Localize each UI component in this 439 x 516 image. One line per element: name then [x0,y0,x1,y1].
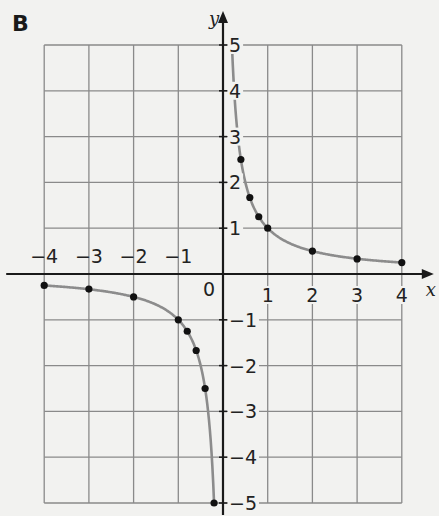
axes [6,11,434,515]
panel-label: B [12,11,29,36]
y-tick-label: −4 [229,446,257,468]
origin-label: 0 [203,278,215,300]
data-point [184,328,191,335]
data-point [264,225,271,232]
data-point [237,156,244,163]
data-point [41,282,48,289]
y-tick-label: 3 [229,126,241,148]
data-point [175,316,182,323]
data-point [85,286,92,293]
x-axis-label: x [426,279,436,300]
data-point [354,255,361,262]
x-tick-label: 4 [396,284,408,306]
data-point [193,347,200,354]
y-tick-label: 5 [229,34,241,56]
data-point [398,259,405,266]
data-point [309,248,316,255]
data-point [246,194,253,201]
x-tick-label: 3 [351,284,363,306]
y-axis-label: y [208,8,220,29]
y-axis-arrow [218,11,228,23]
data-point [130,293,137,300]
curve-negative-branch [44,285,214,503]
data-point [210,499,217,506]
x-tick-label: 2 [306,284,318,306]
data-point [255,213,262,220]
y-tick-label: −2 [229,355,257,377]
y-tick-label: 2 [229,171,241,193]
x-tick-label: −1 [164,245,192,267]
data-point [202,385,209,392]
y-tick-label: −1 [229,309,257,331]
x-tick-label: −2 [120,245,148,267]
chart: B −4−3−2−11234−5−4−3−2−112345 x y 0 [0,0,439,516]
x-tick-label: −4 [30,245,58,267]
curve-positive-branch [232,45,402,263]
y-tick-label: 4 [229,80,241,102]
x-tick-label: 1 [262,284,274,306]
x-axis-arrow [422,269,434,279]
y-tick-label: 1 [229,217,241,239]
y-tick-label: −5 [229,492,257,514]
y-tick-label: −3 [229,400,257,422]
x-tick-label: −3 [75,245,103,267]
